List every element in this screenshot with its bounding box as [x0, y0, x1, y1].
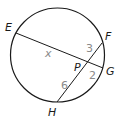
- intersecting-chords-diagram: E F G H P x 3 2 6: [0, 0, 121, 123]
- point-label-g: G: [106, 65, 115, 78]
- point-label-p: P: [74, 61, 81, 74]
- point-label-f: F: [105, 30, 112, 43]
- circle: [11, 8, 105, 102]
- segment-label-pf: 3: [86, 42, 93, 55]
- point-label-e: E: [5, 21, 12, 34]
- point-label-h: H: [48, 106, 56, 119]
- segment-label-ph: 6: [61, 79, 68, 92]
- segment-label-pg: 2: [89, 69, 96, 82]
- segment-label-ep: x: [44, 47, 52, 60]
